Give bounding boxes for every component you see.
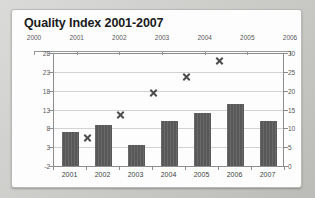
bar [128, 145, 145, 166]
top-axis-tick-label: 2006 [283, 34, 297, 41]
chart-card: Quality Index 2001-2007 2000200120022003… [11, 9, 302, 188]
bar [95, 125, 112, 166]
x-axis-ticks [53, 166, 284, 170]
scatter-marker [183, 74, 190, 81]
top-axis-tick-label: 2005 [240, 34, 254, 41]
x-axis-tick-label: 2007 [260, 171, 276, 178]
x-axis-tick-label: 2005 [194, 171, 210, 178]
bar [227, 104, 244, 166]
right-axis-tick-label: 30 [288, 50, 295, 57]
right-axis-tick-label: 5 [288, 144, 292, 151]
x-axis-tick-label: 2002 [95, 171, 111, 178]
right-axis-tick-label: 15 [288, 106, 295, 113]
bar [194, 113, 211, 166]
screenshot-frame: Quality Index 2001-2007 2000200120022003… [0, 0, 315, 198]
x-axis-tick-label: 2006 [227, 171, 243, 178]
x-axis-tick-label: 2003 [128, 171, 144, 178]
right-axis-tick-label: 20 [288, 87, 295, 94]
gridline [54, 72, 283, 73]
top-axis-tick-label: 2003 [155, 34, 169, 41]
x-axis-tick-label: 2001 [62, 171, 78, 178]
scatter-marker [84, 134, 91, 141]
gridline [54, 91, 283, 92]
right-axis-tick-label: 10 [288, 125, 295, 132]
top-axis-tick-label: 2002 [112, 34, 126, 41]
scatter-marker [216, 57, 223, 64]
right-y-axis-ticks [284, 53, 288, 166]
top-axis-tick-label: 2001 [69, 34, 83, 41]
right-y-axis-labels: 051015202530 [288, 53, 308, 166]
scatter-marker [117, 112, 124, 119]
gridline [54, 110, 283, 111]
right-axis-tick-label: 0 [288, 163, 292, 170]
top-axis-tick-label: 2000 [27, 34, 41, 41]
left-y-axis-labels: -23813182328 [32, 53, 50, 166]
top-axis-tick-label: 2004 [197, 34, 211, 41]
right-axis-tick-label: 25 [288, 68, 295, 75]
gridline [54, 53, 283, 54]
page-title: Quality Index 2001-2007 [24, 16, 163, 30]
secondary-x-axis-labels: 2000200120022003200420052006 [34, 34, 290, 52]
bar [161, 121, 178, 166]
bar [260, 121, 277, 166]
bar [62, 132, 79, 166]
plot-area [53, 53, 284, 166]
x-axis-labels: 2001200220032004200520062007 [53, 171, 284, 185]
x-axis-tick-label: 2004 [161, 171, 177, 178]
scatter-marker [150, 89, 157, 96]
